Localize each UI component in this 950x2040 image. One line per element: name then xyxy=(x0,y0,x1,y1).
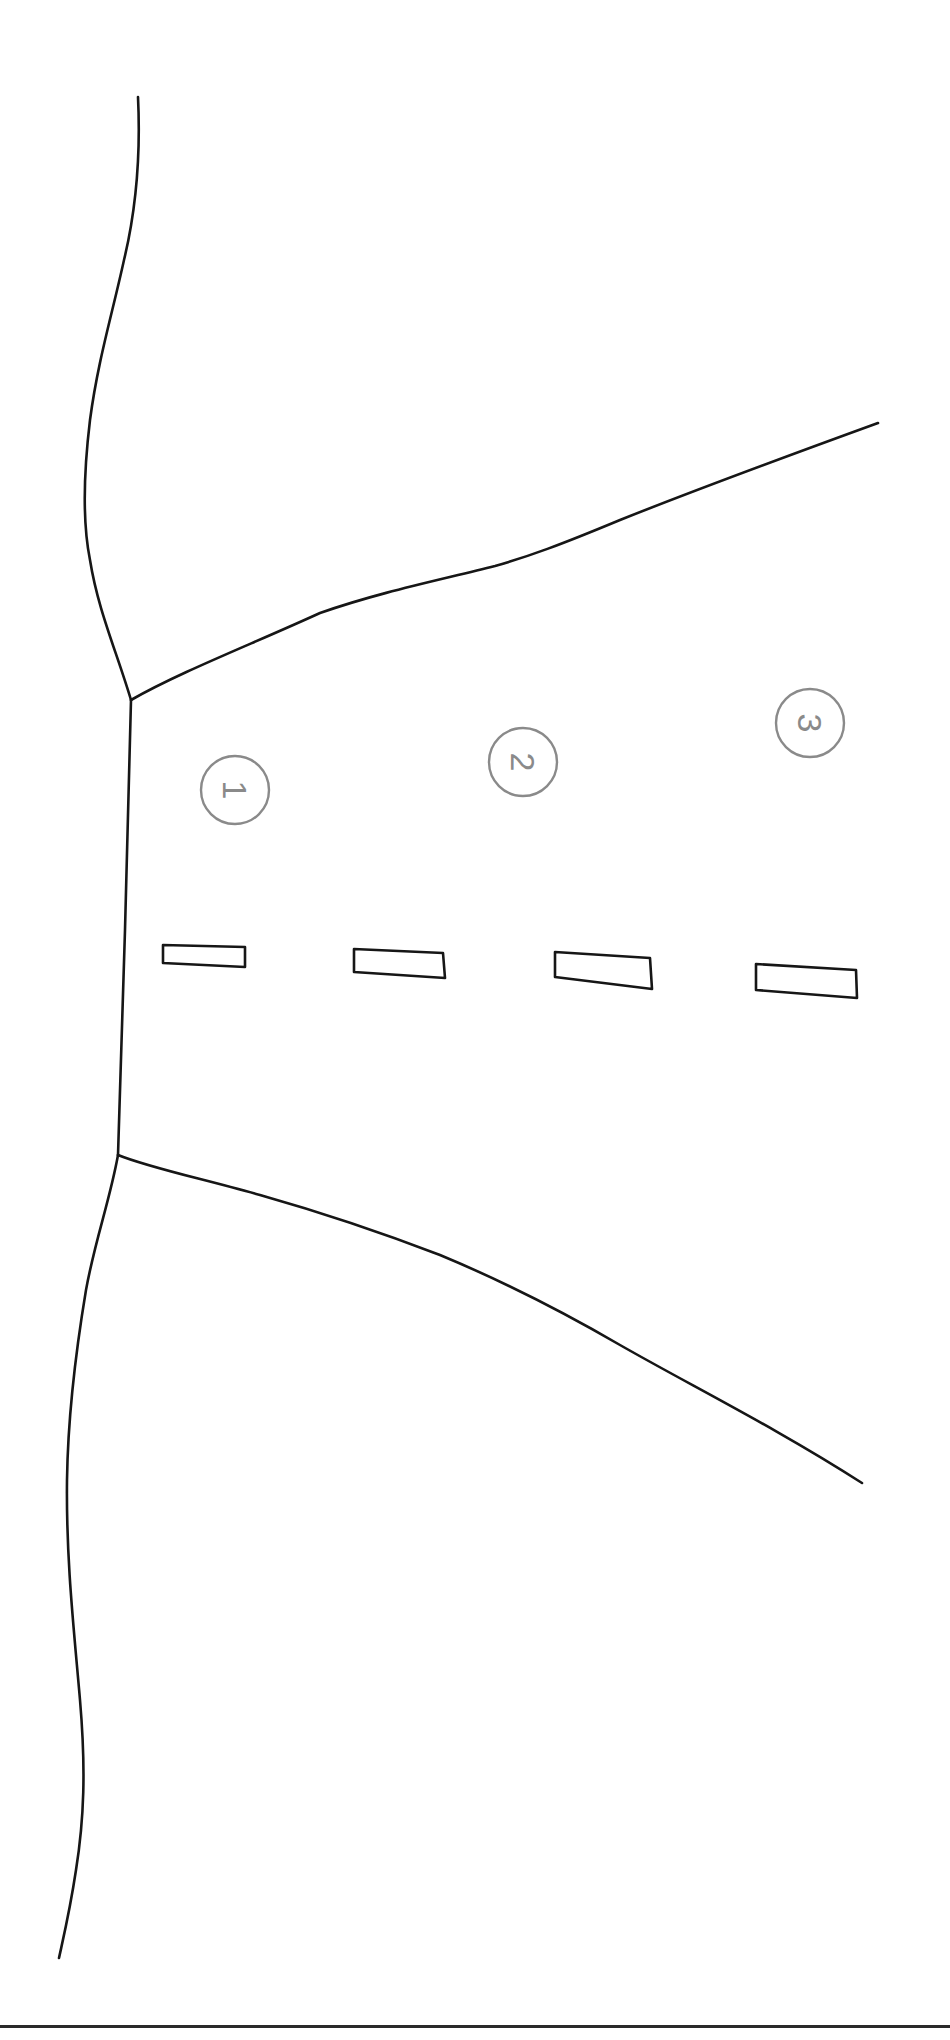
lane-dash-2 xyxy=(354,949,445,978)
road-diagram: 1 2 3 xyxy=(0,0,950,2040)
marker-label: 3 xyxy=(791,714,829,733)
road-edge-lower-right xyxy=(118,1155,862,1483)
marker-label: 2 xyxy=(504,753,542,772)
road-edge-upper-right xyxy=(131,423,878,700)
road-edge-lower-left xyxy=(59,1155,118,1958)
lane-dash-4 xyxy=(756,964,857,998)
marker-3: 3 xyxy=(776,689,844,757)
marker-label: 1 xyxy=(216,781,254,800)
marker-1: 1 xyxy=(201,756,269,824)
road-edge-upper-left xyxy=(85,97,139,700)
lane-divider xyxy=(163,945,857,998)
road-edge-vertical xyxy=(118,700,131,1155)
lane-dash-1 xyxy=(163,945,245,967)
bottom-rule xyxy=(0,2025,950,2028)
lane-dash-3 xyxy=(555,952,652,989)
marker-2: 2 xyxy=(489,728,557,796)
